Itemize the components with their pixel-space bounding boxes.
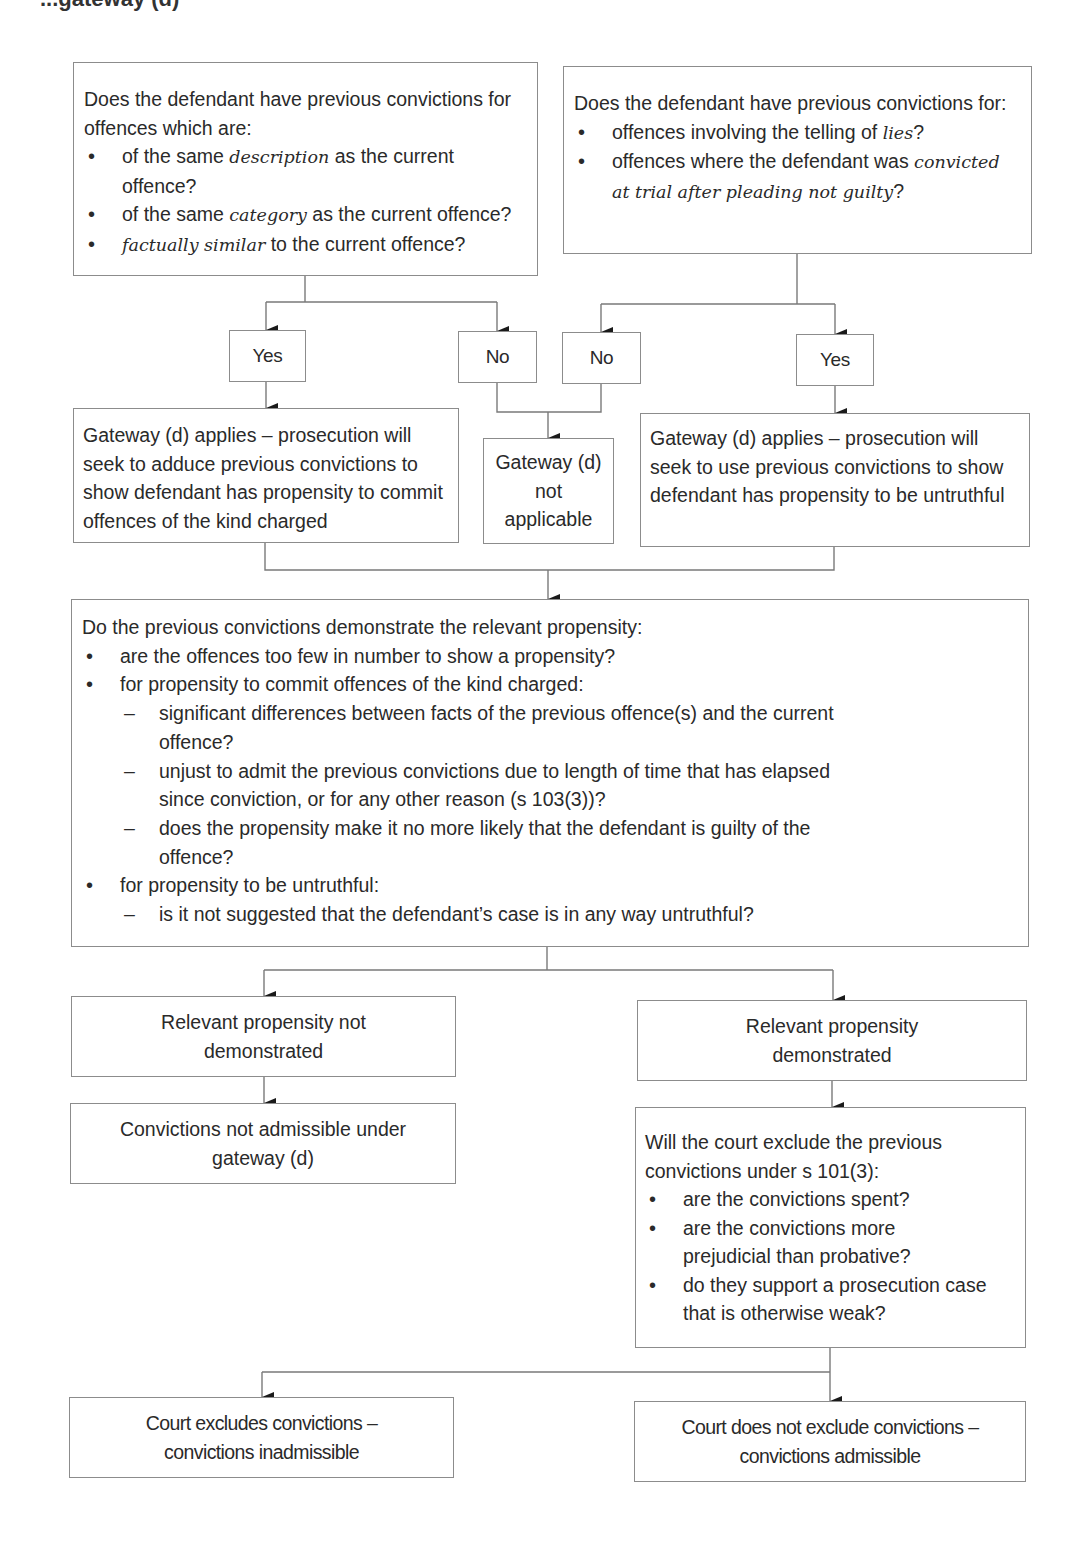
court-excludes-convictions: Court excludes convictions – convictions… [69,1397,454,1478]
list-item: are the offences too few in number to sh… [82,642,1018,671]
list-item: for propensity to be untruthful: is it n… [82,871,1018,928]
list-item: factually similar to the current offence… [84,230,527,260]
gateway-applies-kind-charged: Gateway (d) applies – prosecution will s… [73,408,459,543]
question-demonstrate-list: are the offences too few in number to sh… [82,642,1018,929]
sub-list: is it not suggested that the defendant’s… [120,900,1018,929]
sub-list-item: does the propensity make it no more like… [120,814,880,871]
question-court-exclude-list: are the convictions spent? are the convi… [645,1185,1016,1328]
list-item: of the same description as the current o… [84,142,527,200]
answer-yes-left: Yes [229,330,306,382]
convictions-not-admissible-gateway: Convictions not admissible under gateway… [70,1103,456,1184]
question-demonstrate-propensity: Do the previous convictions demonstrate … [71,599,1029,947]
list-item: offences where the defendant was convict… [574,147,1021,206]
page-title: ...gateway (d) [40,0,179,12]
question-demonstrate-intro: Do the previous convictions demonstrate … [82,613,1018,642]
sub-list-item: unjust to admit the previous convictions… [120,757,880,814]
question-court-exclude: Will the court exclude the previous conv… [635,1107,1026,1348]
question-court-exclude-intro: Will the court exclude the previous conv… [645,1128,1016,1185]
list-item: for propensity to commit offences of the… [82,670,1018,871]
question-untruthful-intro: Does the defendant have previous convict… [574,89,1021,118]
question-untruthful-box: Does the defendant have previous convict… [563,66,1032,254]
list-item: are the convictions spent? [645,1185,1016,1214]
list-item: offences involving the telling of lies? [574,118,1021,148]
question-same-offence-list: of the same description as the current o… [84,142,527,259]
question-same-offence-intro: Does the defendant have previous convict… [84,85,527,142]
sub-list: significant differences between facts of… [120,699,880,871]
list-item: of the same category as the current offe… [84,200,527,230]
gateway-not-applicable: Gateway (d) not applicable [483,438,614,544]
question-same-offence-box: Does the defendant have previous convict… [73,62,538,276]
list-item: are the convictions more prejudicial tha… [645,1214,1016,1271]
sub-list-item: significant differences between facts of… [120,699,880,756]
answer-yes-right: Yes [796,334,874,386]
question-untruthful-list: offences involving the telling of lies? … [574,118,1021,207]
court-does-not-exclude-convictions: Court does not exclude convictions – con… [634,1401,1026,1482]
propensity-demonstrated: Relevant propensity demonstrated [637,1000,1027,1081]
answer-no-right: No [562,332,641,384]
list-item: do they support a prosecution case that … [645,1271,1016,1328]
sub-list-item: is it not suggested that the defendant’s… [120,900,1018,929]
propensity-not-demonstrated: Relevant propensity not demonstrated [71,996,456,1077]
answer-no-left: No [458,331,537,383]
gateway-applies-untruthful: Gateway (d) applies – prosecution will s… [640,413,1030,547]
